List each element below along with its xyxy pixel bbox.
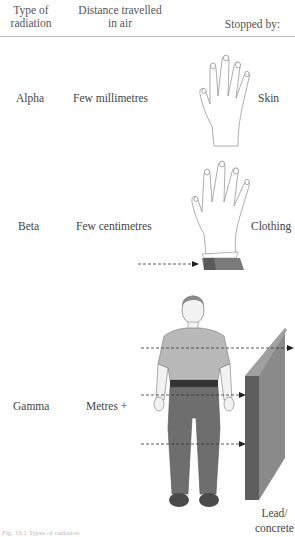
row-alpha-type: Alpha [16, 92, 44, 104]
header-type-of-radiation: Type of radiation [6, 4, 56, 30]
hand-icon [196, 48, 266, 148]
header-distance-travelled: Distance travelled in air [70, 4, 170, 30]
row-alpha-distance: Few millimetres [73, 92, 148, 104]
row-beta-type: Beta [18, 220, 39, 232]
row-beta-distance: Few centimetres [76, 220, 152, 232]
stopped-by-line: concrete [255, 521, 294, 536]
hand-with-sleeve-icon [192, 158, 272, 270]
row-gamma-type: Gamma [13, 400, 49, 412]
gamma-arrow-bottom-icon [141, 440, 247, 448]
stopped-by-line: Lead/ [255, 506, 294, 521]
header-line: Type of [6, 4, 56, 17]
person-icon [144, 288, 244, 513]
gamma-arrow-middle-icon [141, 391, 247, 399]
header-line: Distance travelled [70, 4, 170, 17]
beta-arrow-icon [138, 260, 200, 268]
row-gamma-stopped-by: Lead/ concrete [255, 506, 294, 536]
row-gamma-distance: Metres + [86, 400, 127, 412]
gamma-arrow-top-icon [141, 344, 295, 352]
header-stopped-by: Stopped by: [215, 18, 290, 31]
header-divider [0, 36, 295, 37]
header-line: in air [70, 17, 170, 30]
figure-caption: Fig. 19.1 Types of radiation [2, 529, 80, 537]
header-line: radiation [6, 17, 56, 30]
lead-wall-icon [245, 328, 287, 500]
